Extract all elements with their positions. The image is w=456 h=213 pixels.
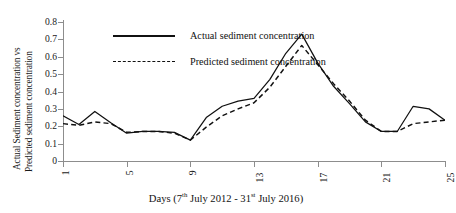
x-axis-title-suffix: July 2016)	[255, 193, 303, 204]
x-tick-mark	[63, 162, 64, 167]
x-tick-label: 25	[446, 173, 456, 183]
x-tick-mark	[127, 162, 128, 167]
y-tick-label: 0.5	[45, 69, 57, 79]
chart-legend: Actual sediment concentration Predicted …	[113, 29, 363, 79]
x-tick-mark	[318, 162, 319, 167]
legend-swatch-actual	[113, 35, 175, 37]
x-tick-label: 1	[61, 170, 71, 175]
x-tick-label: 5	[125, 170, 135, 175]
x-axis-title-prefix: Days (7	[149, 193, 182, 204]
legend-swatch-predicted	[113, 61, 175, 62]
y-tick-label: 0.2	[45, 121, 57, 131]
x-tick-mark	[254, 162, 255, 167]
legend-label-actual: Actual sediment concentration	[190, 29, 314, 42]
y-axis-title-line1: Actual Sediment concentration vs	[12, 47, 22, 170]
x-axis-title: Days (7th July 2012 - 31st July 2016)	[0, 191, 452, 204]
legend-label-predicted: Predicted sediment concentration	[190, 55, 326, 68]
y-tick-label: 0	[52, 156, 57, 166]
x-tick-mark	[445, 162, 446, 167]
y-tick-label: 0.8	[45, 17, 57, 27]
x-tick-label: 9	[189, 170, 199, 175]
x-tick-label: 13	[255, 173, 265, 183]
x-axis-title-mid: July 2012 - 31	[187, 193, 251, 204]
x-tick-label: 17	[318, 173, 328, 183]
y-axis-tick-labels: 00.10.20.30.40.50.60.70.8	[30, 0, 60, 213]
y-tick-label: 0.1	[45, 139, 57, 149]
x-tick-label: 21	[382, 173, 392, 183]
y-tick-label: 0.3	[45, 104, 57, 114]
y-tick-label: 0.7	[45, 34, 57, 44]
y-tick-label: 0.4	[45, 87, 57, 97]
x-tick-mark	[381, 162, 382, 167]
x-tick-mark	[190, 162, 191, 167]
y-tick-label: 0.6	[45, 52, 57, 62]
